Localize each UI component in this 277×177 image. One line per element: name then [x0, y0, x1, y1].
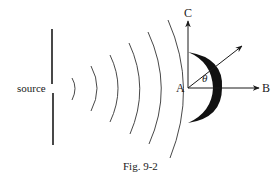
wavefront-3	[110, 55, 118, 122]
point-c-label: C	[184, 7, 192, 19]
point-b-label: B	[262, 82, 270, 94]
wavefront-2	[91, 66, 97, 111]
source-barrier	[52, 29, 53, 145]
angle-theta-label: θ	[202, 73, 207, 84]
point-a-label: A	[176, 82, 185, 94]
source-label: source	[17, 83, 46, 94]
wavefront-4	[129, 43, 140, 134]
figure-caption: Fig. 9-2	[123, 161, 158, 172]
wavefronts	[72, 20, 184, 158]
wavefront-5	[148, 32, 161, 144]
wavefront-1	[72, 78, 75, 100]
